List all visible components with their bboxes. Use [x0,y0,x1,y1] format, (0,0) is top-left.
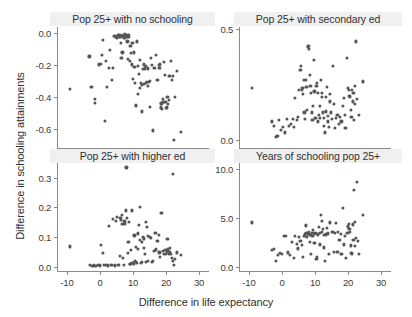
data-point [174,95,177,98]
y-tick-higher-ed-2 [54,237,57,238]
data-point [339,115,342,118]
data-point [103,119,106,122]
y-tick-years-schooling-0 [236,169,239,170]
data-point [141,110,144,113]
data-point [349,109,352,112]
data-point [307,48,310,51]
data-point [135,261,138,264]
data-point [322,116,325,119]
data-point [318,116,321,119]
data-point [137,223,140,226]
data-point [300,64,303,67]
data-point [157,233,160,236]
data-point [168,247,171,250]
data-point [141,241,144,244]
data-point [342,243,345,246]
data-point [315,81,318,84]
data-point [303,118,306,121]
data-point [325,227,328,230]
data-point [300,243,303,246]
data-point [114,219,117,222]
data-point [158,66,161,69]
data-point [169,60,172,63]
data-point [137,72,140,75]
y-tick-years-schooling-1 [236,218,239,219]
data-point [286,118,289,121]
data-point [142,237,145,240]
data-point [101,252,104,255]
data-point [301,86,304,89]
data-point [319,104,322,107]
data-point [348,231,351,234]
x-tick-label-higher-ed-4: 30 [194,277,204,288]
data-point [133,234,136,237]
panel-title-no-schooling: Pop 25+ with no schooling [50,12,215,26]
data-point [339,232,342,235]
data-point [159,255,162,258]
data-point [357,113,360,116]
data-point [299,239,302,242]
data-point [172,263,175,266]
data-point [354,40,357,43]
data-point [151,129,154,132]
y-tick-no-schooling-1 [54,65,57,66]
y-axis-line-higher-ed [57,163,58,271]
data-point [136,247,139,250]
data-point [342,96,345,99]
data-point [151,260,154,263]
data-point [180,253,183,256]
data-point [321,227,324,230]
data-point [352,91,355,94]
x-tick-label-years-schooling-2: 10 [310,277,320,288]
data-point [352,188,355,191]
data-point [156,240,159,243]
data-point [312,59,315,62]
data-point [100,53,103,56]
data-point [327,120,330,123]
data-point [296,247,299,250]
data-point [336,250,339,253]
data-point [171,74,174,77]
data-point [362,80,365,83]
data-point [308,240,311,243]
data-point [328,100,331,103]
panel-title-secondary-ed: Pop 25+ with secondary ed [234,12,402,26]
y-tick-label-higher-ed-0: 0.3 [15,172,51,183]
data-point [146,67,149,70]
data-point [329,111,332,114]
data-point [136,64,139,67]
data-point [333,102,336,105]
data-point [292,125,295,128]
data-point [166,103,169,106]
data-point [104,60,107,63]
data-point [272,124,275,127]
data-point [321,91,324,94]
data-point [320,95,323,98]
data-point [159,63,162,66]
data-point [320,219,323,222]
data-point [138,205,141,208]
y-tick-label-secondary-ed-0: 0.5 [197,24,233,35]
x-tick-higher-ed-2 [133,272,134,275]
data-point [149,105,152,108]
y-tick-no-schooling-0 [54,33,57,34]
data-point [305,85,308,88]
data-point [315,256,318,259]
data-point [140,261,143,264]
data-point [296,115,299,118]
data-point [323,246,326,249]
y-tick-label-years-schooling-2: 0.0 [197,262,233,273]
data-point [108,224,111,227]
data-point [288,253,291,256]
data-point [145,225,148,228]
y-tick-label-years-schooling-1: 5.0 [197,212,233,223]
x-tick-label-higher-ed-3: 20 [161,277,171,288]
data-point [327,125,330,128]
data-point [338,238,341,241]
data-point [162,60,165,63]
y-tick-secondary-ed-1 [236,140,239,141]
y-axis-line-years-schooling [239,163,240,271]
data-point [169,252,172,255]
x-tick-higher-ed-0 [67,272,68,275]
y-tick-label-secondary-ed-1: 0.0 [197,135,233,146]
